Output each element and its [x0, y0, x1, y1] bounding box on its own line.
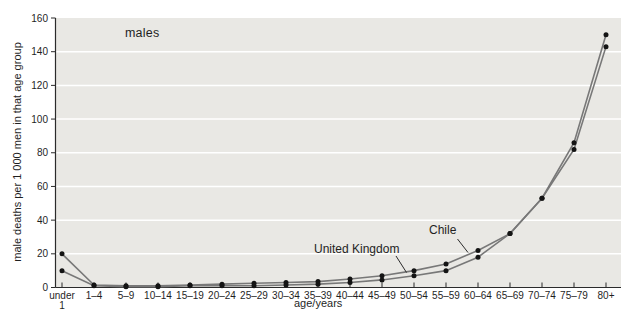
- x-tick-label: 1–4: [86, 290, 103, 301]
- x-tick-label: 50–54: [400, 290, 428, 301]
- y-tick-label: 160: [31, 13, 48, 24]
- data-point: [156, 284, 161, 289]
- panel-title: males: [125, 26, 159, 40]
- data-point: [508, 231, 513, 236]
- data-point: [476, 248, 481, 253]
- y-tick-label: 40: [37, 215, 49, 226]
- x-tick-label: 45–49: [368, 290, 396, 301]
- x-tick-label: 55–59: [432, 290, 460, 301]
- series-label-united-kingdom: United Kingdom: [314, 242, 399, 256]
- x-tick-label: 65–69: [496, 290, 524, 301]
- data-point: [60, 268, 65, 273]
- data-point: [188, 283, 193, 288]
- data-point: [412, 273, 417, 278]
- data-point: [604, 44, 609, 49]
- data-point: [540, 196, 545, 201]
- y-tick-label: 60: [37, 181, 49, 192]
- data-point: [444, 268, 449, 273]
- y-axis-title: male deaths per 1 000 men in that age gr…: [11, 2, 23, 302]
- y-axis-ticks: 020406080100120140160: [31, 13, 55, 294]
- data-point: [60, 251, 65, 256]
- data-point: [412, 268, 417, 273]
- y-tick-label: 120: [31, 80, 48, 91]
- data-point: [572, 140, 577, 145]
- x-tick-label: 5–9: [118, 290, 135, 301]
- y-tick-label: 0: [42, 282, 48, 293]
- data-point: [92, 283, 97, 288]
- data-point: [380, 277, 385, 282]
- data-point: [220, 283, 225, 288]
- x-tick-label: 80+: [598, 290, 615, 301]
- y-tick-label: 140: [31, 46, 48, 57]
- x-axis-title: age/years: [294, 297, 342, 309]
- data-point: [444, 261, 449, 266]
- chart-canvas: 020406080100120140160under11–45–910–1415…: [0, 0, 627, 326]
- x-tick-label: 1: [59, 300, 65, 311]
- data-point: [604, 32, 609, 37]
- data-point: [252, 283, 257, 288]
- data-point: [476, 255, 481, 260]
- data-point: [284, 282, 289, 287]
- x-tick-label: 60–64: [464, 290, 492, 301]
- y-tick-label: 100: [31, 114, 48, 125]
- mortality-chart-figure: 020406080100120140160under11–45–910–1415…: [0, 0, 627, 326]
- y-tick-label: 80: [37, 147, 49, 158]
- series-label-chile: Chile: [429, 223, 456, 237]
- x-tick-label: 75–79: [560, 290, 588, 301]
- y-tick-label: 20: [37, 248, 49, 259]
- data-point: [124, 284, 129, 289]
- x-tick-label: 25–29: [240, 290, 268, 301]
- data-point: [316, 282, 321, 287]
- x-tick-label: 15–19: [176, 290, 204, 301]
- x-tick-label: 20–24: [208, 290, 236, 301]
- data-point: [348, 280, 353, 285]
- x-tick-label: 10–14: [144, 290, 172, 301]
- x-tick-label: 70–74: [528, 290, 556, 301]
- data-point: [572, 147, 577, 152]
